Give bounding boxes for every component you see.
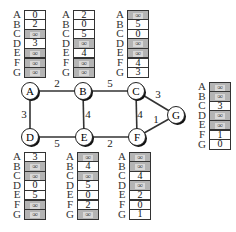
node-label: G: [172, 109, 180, 121]
distance-value: 3: [136, 68, 141, 77]
distance-value: ∞: [79, 70, 89, 76]
distance-value: ∞: [135, 155, 145, 161]
distance-value: ∞: [30, 70, 40, 76]
distance-value: ∞: [30, 212, 40, 218]
distance-cell-infinity: ∞: [73, 67, 95, 77]
distance-value: 4: [86, 162, 91, 171]
distance-value: 3: [218, 102, 223, 111]
routing-table-g: A∞B∞C3D∞E∞F1G0: [197, 82, 231, 149]
node-label: E: [81, 131, 88, 143]
distance-cell: 1: [129, 209, 151, 219]
routing-table-c: A∞B5C0D∞E∞F4G3: [115, 10, 149, 77]
destination-label: G: [117, 210, 127, 220]
distance-cell: 3: [127, 67, 149, 77]
distance-value: ∞: [133, 41, 143, 47]
distance-value: ∞: [30, 51, 40, 57]
distance-value: ∞: [215, 113, 225, 119]
distance-value: ∞: [215, 85, 225, 91]
node-label: A: [26, 85, 34, 97]
routing-table-d: A3B∞C∞D0E5F∞G∞: [12, 152, 46, 219]
routing-table-b: A2B0C5D∞E4F∞G∞: [61, 10, 95, 77]
routing-table-a: A0B2C∞D3E∞F∞G∞: [12, 10, 46, 77]
node-label: C: [132, 85, 139, 97]
routing-table-e: A∞B4C∞D5E0F2G∞: [65, 152, 99, 219]
edge-weight-label: 4: [137, 108, 143, 120]
node-f: F: [129, 129, 148, 148]
distance-value: 4: [82, 49, 87, 58]
edge-weight-label: 3: [21, 108, 27, 120]
destination-label: G: [115, 68, 125, 78]
distance-cell: 0: [209, 139, 231, 149]
table-row: G∞: [12, 68, 46, 78]
distance-value: ∞: [79, 61, 89, 67]
destination-label: G: [12, 210, 22, 220]
distance-value: 5: [82, 30, 87, 39]
distance-value: 2: [86, 201, 91, 210]
distance-value: 3: [33, 39, 38, 48]
destination-label: G: [61, 68, 71, 78]
distance-cell-infinity: ∞: [77, 209, 99, 219]
node-a: A: [22, 83, 41, 102]
distance-value: 3: [33, 153, 38, 162]
node-label: B: [79, 85, 86, 97]
edge-weight-label: 2: [107, 137, 113, 149]
node-c: C: [128, 83, 147, 102]
edge-weight-label: 5: [54, 137, 60, 149]
table-row: G1: [117, 210, 151, 220]
routing-table-f: A∞B∞C4D∞E2F0G1: [117, 152, 151, 219]
table-row: G∞: [65, 210, 99, 220]
distance-value: 0: [218, 140, 223, 149]
distance-value: ∞: [30, 164, 40, 170]
distance-vector-diagram: 253445231 ABCDEFG A0B2C∞D3E∞F∞G∞A2B0C5D∞…: [0, 0, 236, 232]
edge-weight-label: 1: [153, 113, 159, 125]
node-e: E: [76, 129, 95, 148]
edge-weight-label: 4: [85, 108, 91, 120]
table-row: G∞: [61, 68, 95, 78]
node-label: D: [26, 131, 34, 143]
distance-cell-infinity: ∞: [24, 209, 46, 219]
distance-value: 1: [138, 210, 143, 219]
distance-value: ∞: [30, 61, 40, 67]
distance-value: 5: [33, 191, 38, 200]
edge-weight-label: 3: [155, 88, 161, 100]
destination-label: G: [65, 210, 75, 220]
node-b: B: [75, 83, 94, 102]
edge-weight-label: 5: [107, 77, 113, 89]
table-row: G0: [197, 140, 231, 150]
node-d: D: [22, 129, 41, 148]
node-g: G: [168, 107, 187, 126]
edge-weight-label: 2: [54, 77, 60, 89]
distance-cell-infinity: ∞: [24, 67, 46, 77]
distance-value: ∞: [83, 212, 93, 218]
distance-value: ∞: [30, 203, 40, 209]
table-row: G∞: [12, 210, 46, 220]
distance-value: 4: [138, 172, 143, 181]
destination-label: G: [12, 68, 22, 78]
distance-value: 0: [136, 30, 141, 39]
node-label: F: [134, 131, 140, 143]
destination-label: G: [197, 140, 207, 150]
table-row: G3: [115, 68, 149, 78]
distance-value: 2: [33, 20, 38, 29]
